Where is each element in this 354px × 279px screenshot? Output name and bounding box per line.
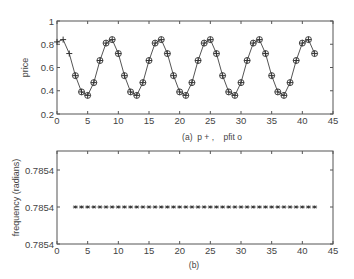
plot-caption: (a) p + , pfit o <box>182 132 242 142</box>
y-tick-label: 0.8 <box>41 39 54 50</box>
series-pfit <box>72 37 317 99</box>
x-tick-label: 5 <box>85 115 90 126</box>
star-marker <box>269 206 274 209</box>
star-marker <box>128 206 133 209</box>
star-marker <box>122 206 127 209</box>
star-marker <box>245 206 250 209</box>
star-marker <box>110 206 115 209</box>
star-marker <box>189 206 194 209</box>
x-tick-label: 20 <box>174 115 185 126</box>
star-marker <box>104 206 109 209</box>
x-tick-label: 10 <box>113 245 124 256</box>
x-tick-label: 45 <box>328 115 339 126</box>
star-marker <box>177 206 182 209</box>
figure: 0510152025303540450.20.40.60.81price(a) … <box>0 0 354 279</box>
star-marker <box>281 206 286 209</box>
star-marker <box>312 206 317 209</box>
x-tick-label: 35 <box>266 115 277 126</box>
x-tick-label: 25 <box>205 115 216 126</box>
y-tick-label: 0.7854 <box>25 202 54 213</box>
star-marker <box>202 206 207 209</box>
star-marker <box>153 206 158 209</box>
star-marker <box>91 206 96 209</box>
star-marker <box>165 206 170 209</box>
star-marker <box>306 206 311 209</box>
x-tick-label: 40 <box>297 115 308 126</box>
star-marker <box>226 206 231 209</box>
star-marker <box>294 206 299 209</box>
y-tick-label: 0.2 <box>41 109 54 120</box>
y-axis-label: price <box>20 58 30 78</box>
y-tick-label: 0.6 <box>41 62 54 73</box>
x-tick-label: 15 <box>144 245 155 256</box>
plus-marker <box>66 51 72 57</box>
star-marker <box>159 206 164 209</box>
star-marker <box>116 206 121 209</box>
star-marker <box>288 206 293 209</box>
star-marker <box>214 206 219 209</box>
star-marker <box>275 206 280 209</box>
y-tick-label: 0.4 <box>41 85 54 96</box>
y-tick-label: 1 <box>49 16 54 27</box>
series-line <box>57 40 315 96</box>
x-tick-label: 30 <box>236 115 247 126</box>
star-marker <box>196 206 201 209</box>
x-tick-label: 0 <box>54 245 59 256</box>
star-marker <box>232 206 237 209</box>
star-marker <box>85 206 90 209</box>
x-tick-label: 5 <box>85 245 90 256</box>
star-marker <box>97 206 102 209</box>
star-marker <box>300 206 305 209</box>
y-axis-label: frequency (radians) <box>11 159 21 237</box>
x-tick-label: 45 <box>328 245 339 256</box>
star-marker <box>171 206 176 209</box>
x-tick-label: 30 <box>236 245 247 256</box>
frequency-plot: 0510152025303540450.78540.78540.7854freq… <box>11 151 338 270</box>
star-marker <box>251 206 256 209</box>
x-tick-label: 40 <box>297 245 308 256</box>
x-tick-label: 25 <box>205 245 216 256</box>
star-marker <box>257 206 262 209</box>
y-tick-label: 0.7854 <box>25 239 54 250</box>
series-frequency <box>73 206 317 209</box>
star-marker <box>263 206 268 209</box>
star-marker <box>134 206 139 209</box>
plot-caption: (b) <box>189 260 200 270</box>
price-plot: 0510152025303540450.20.40.60.81price(a) … <box>20 16 338 143</box>
star-marker <box>147 206 152 209</box>
plus-marker <box>60 37 66 43</box>
x-tick-label: 0 <box>54 115 59 126</box>
star-marker <box>79 206 84 209</box>
star-marker <box>220 206 225 209</box>
star-marker <box>208 206 213 209</box>
x-tick-label: 10 <box>113 115 124 126</box>
star-marker <box>239 206 244 209</box>
star-marker <box>140 206 145 209</box>
x-tick-label: 35 <box>266 245 277 256</box>
star-marker <box>73 206 78 209</box>
star-marker <box>183 206 188 209</box>
axes-box <box>57 151 333 244</box>
x-tick-label: 20 <box>174 245 185 256</box>
x-tick-label: 15 <box>144 115 155 126</box>
y-tick-label: 0.7854 <box>25 165 54 176</box>
